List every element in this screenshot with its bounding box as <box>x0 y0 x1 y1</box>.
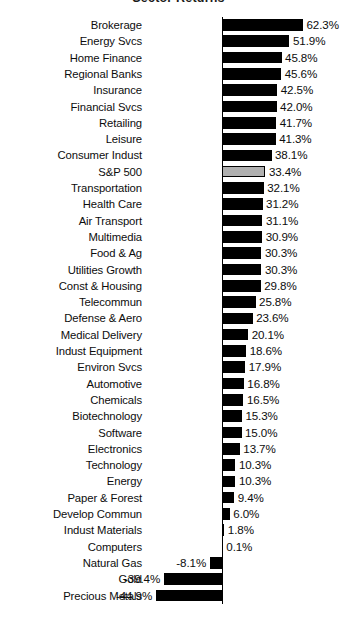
chart-row: Indust Equipment18.6% <box>0 343 357 359</box>
bar <box>222 35 289 47</box>
bar <box>222 378 244 390</box>
value-label: -44.9% <box>116 588 152 604</box>
chart-row: Natural Gas-8.1% <box>0 555 357 571</box>
category-label: Energy Svcs <box>0 33 142 49</box>
chart-row: Defense & Aero23.6% <box>0 310 357 326</box>
value-label: 9.4% <box>238 490 264 506</box>
chart-row: Gold-39.4% <box>0 571 357 587</box>
chart-row: Insurance42.5% <box>0 82 357 98</box>
category-label: Health Care <box>0 196 142 212</box>
value-label: 23.6% <box>256 310 288 326</box>
chart-row: Telecommun25.8% <box>0 294 357 310</box>
value-label: 45.8% <box>285 50 317 66</box>
chart-row: Indust Materials1.8% <box>0 522 357 538</box>
category-label: Paper & Forest <box>0 490 142 506</box>
chart-row: Biotechnology15.3% <box>0 408 357 424</box>
category-label: Indust Equipment <box>0 343 142 359</box>
category-label: Biotechnology <box>0 408 142 424</box>
bar <box>222 492 234 504</box>
chart-row: S&P 50033.4% <box>0 164 357 180</box>
bar <box>222 508 230 520</box>
value-label: 0.1% <box>226 539 252 555</box>
bar <box>222 182 264 194</box>
value-label: 30.3% <box>265 262 297 278</box>
bar <box>222 133 276 145</box>
chart-row: Medical Delivery20.1% <box>0 327 357 343</box>
bar <box>222 361 245 373</box>
bar <box>222 84 277 96</box>
category-label: Telecommun <box>0 294 142 310</box>
bar <box>156 590 222 602</box>
category-label: Develop Commun <box>0 506 142 522</box>
chart-row: Chemicals16.5% <box>0 392 357 408</box>
chart-row: Food & Ag30.3% <box>0 245 357 261</box>
category-label: Defense & Aero <box>0 310 142 326</box>
category-label: Leisure <box>0 131 142 147</box>
value-label: 29.8% <box>264 278 296 294</box>
bar <box>222 101 277 113</box>
bar <box>222 231 262 243</box>
bar <box>222 19 303 31</box>
bar <box>222 427 242 439</box>
bar <box>222 296 256 308</box>
value-label: -8.1% <box>176 555 206 571</box>
chart-row: Develop Commun6.0% <box>0 506 357 522</box>
value-label: 17.9% <box>249 359 281 375</box>
category-label: Natural Gas <box>0 555 142 571</box>
value-label: 51.9% <box>293 33 325 49</box>
value-label: 18.6% <box>250 343 282 359</box>
category-label: Const & Housing <box>0 278 142 294</box>
bar <box>222 280 261 292</box>
bar <box>164 573 222 585</box>
category-label: Multimedia <box>0 229 142 245</box>
chart-row: Energy Svcs51.9% <box>0 33 357 49</box>
chart-row: Automotive16.8% <box>0 376 357 392</box>
value-label: 38.1% <box>275 147 307 163</box>
category-label: Home Finance <box>0 50 142 66</box>
chart-row: Paper & Forest9.4% <box>0 490 357 506</box>
category-label: Retailing <box>0 115 142 131</box>
chart-row: Energy10.3% <box>0 473 357 489</box>
category-label: Indust Materials <box>0 522 142 538</box>
bar <box>222 247 261 259</box>
value-label: 6.0% <box>233 506 259 522</box>
bar <box>222 459 235 471</box>
value-label: 30.9% <box>266 229 298 245</box>
category-label: Utilities Growth <box>0 262 142 278</box>
bar <box>222 541 223 553</box>
chart-row: Financial Svcs42.0% <box>0 99 357 115</box>
bar <box>222 264 261 276</box>
category-label: Electronics <box>0 441 142 457</box>
bar <box>222 524 224 536</box>
bar <box>222 394 243 406</box>
category-label: Energy <box>0 473 142 489</box>
value-label: 31.1% <box>266 213 298 229</box>
bar <box>222 68 281 80</box>
chart-row: Precious Metals-44.9% <box>0 588 357 604</box>
value-label: 10.3% <box>239 473 271 489</box>
bar <box>222 313 253 325</box>
category-label: Air Transport <box>0 213 142 229</box>
bar-highlight <box>222 166 265 178</box>
value-label: 10.3% <box>239 457 271 473</box>
value-label: 42.0% <box>280 99 312 115</box>
value-label: 15.0% <box>245 425 277 441</box>
bar <box>222 215 262 227</box>
bar <box>222 117 276 129</box>
chart-row: Regional Banks45.6% <box>0 66 357 82</box>
chart-row: Technology10.3% <box>0 457 357 473</box>
value-label: 13.7% <box>243 441 275 457</box>
bar <box>222 329 248 341</box>
value-label: 16.5% <box>247 392 279 408</box>
value-label: 41.7% <box>280 115 312 131</box>
category-label: Chemicals <box>0 392 142 408</box>
chart-row: Brokerage62.3% <box>0 17 357 33</box>
category-label: S&P 500 <box>0 164 142 180</box>
value-label: 1.8% <box>228 522 254 538</box>
category-label: Insurance <box>0 82 142 98</box>
value-label: 41.3% <box>279 131 311 147</box>
chart-row: Health Care31.2% <box>0 196 357 212</box>
value-label: 33.4% <box>269 164 301 180</box>
chart-row: Leisure41.3% <box>0 131 357 147</box>
value-label: 31.2% <box>266 196 298 212</box>
